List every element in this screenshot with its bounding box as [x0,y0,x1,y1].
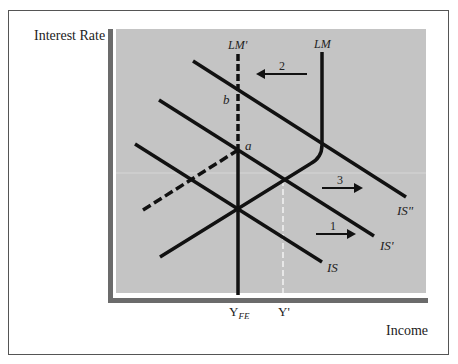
islm-diagram: Interest Rate Income YFE Y' LM' LM IS" I… [0,0,458,364]
arrow-2-label: 2 [279,59,285,73]
y-axis-label: Interest Rate [34,28,105,43]
is-prime-label: IS' [379,238,394,253]
is-label: IS [326,260,338,275]
point-a-label: a [245,138,252,153]
is-double-prime-label: IS" [396,203,414,218]
arrow-3-label: 3 [337,173,343,187]
x-tick-yfe: YFE [229,304,250,321]
point-b-label: b [223,92,230,107]
lm-prime-label: LM' [227,38,248,52]
x-tick-y-prime: Y' [278,304,290,319]
x-axis [108,298,428,303]
x-axis-label: Income [386,323,428,338]
y-axis [108,29,113,303]
arrow-1-label: 1 [330,219,336,233]
lm-label: LM [313,37,332,51]
